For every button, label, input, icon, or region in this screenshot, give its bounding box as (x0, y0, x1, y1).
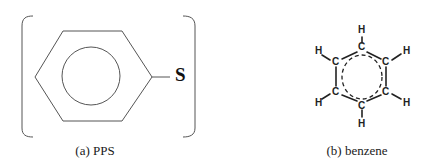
bond-ch-upper-left (322, 55, 330, 60)
hydrogen-label-lower-right: H (403, 97, 410, 108)
figure: S (a) PPS (0, 0, 422, 164)
carbon-label-top: C (358, 41, 365, 52)
carbon-label-lower-left: C (332, 86, 339, 97)
bond-ch-lower-right (392, 94, 401, 99)
hydrogen-label-upper-right: H (403, 45, 410, 56)
bond-c1-c2 (367, 52, 381, 59)
hydrogen-label-lower-left: H (315, 97, 322, 108)
bond-c4-c5 (342, 95, 357, 101)
caption-b: (b) benzene (327, 143, 388, 159)
bond-c6-c1 (342, 52, 357, 59)
bond-c3-c4 (367, 95, 381, 101)
hydrogen-label-bottom: H (358, 118, 365, 129)
carbon-label-bottom: C (358, 100, 365, 111)
hydrogen-label-upper-left: H (315, 45, 322, 56)
delocalized-dashed-ring (342, 55, 382, 99)
hydrogen-label-top: H (358, 24, 365, 35)
carbon-label-upper-left: C (332, 56, 339, 67)
bond-ch-lower-left (322, 94, 330, 99)
bond-ch-upper-right (392, 54, 401, 60)
carbon-label-lower-right: C (382, 86, 389, 97)
carbon-label-upper-right: C (382, 56, 389, 67)
